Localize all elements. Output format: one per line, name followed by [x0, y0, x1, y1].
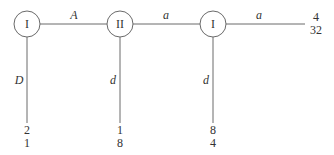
- edge-label-d2: d: [203, 73, 210, 87]
- svg-text:I: I: [25, 17, 29, 31]
- node-n2: II: [107, 11, 133, 37]
- game-tree-diagram: I II I A a a D d d 4 32 2 1 1 8 8 4: [0, 0, 334, 155]
- payoff-right-top: 4: [313, 10, 319, 24]
- node-n1: I: [14, 11, 40, 37]
- payoff-n2-top: 1: [117, 123, 123, 137]
- payoff-n2-bottom: 8: [117, 136, 123, 150]
- node-n3: I: [200, 11, 226, 37]
- edge-label-d1: d: [110, 73, 117, 87]
- payoff-n3-bottom: 4: [210, 136, 216, 150]
- payoff-right-bottom: 32: [310, 23, 322, 37]
- svg-text:I: I: [211, 17, 215, 31]
- edge-label-a1: a: [163, 8, 169, 22]
- edge-label-D: D: [14, 73, 24, 87]
- payoff-n3-top: 8: [210, 123, 216, 137]
- edge-label-A: A: [69, 8, 78, 22]
- edge-label-a2: a: [256, 8, 262, 22]
- svg-text:II: II: [116, 17, 124, 31]
- payoff-n1-top: 2: [24, 123, 30, 137]
- payoff-n1-bottom: 1: [24, 136, 30, 150]
